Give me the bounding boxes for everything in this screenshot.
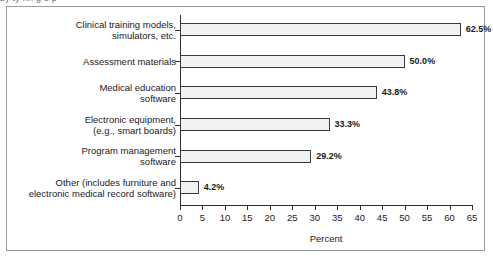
category-label: Assessment materials [0, 56, 176, 67]
x-axis-tick [337, 205, 338, 210]
x-axis-tick [225, 205, 226, 210]
x-axis-title: Percent [180, 233, 472, 244]
bar-row: Assessment materials50.0% [0, 47, 493, 77]
bar [180, 118, 330, 131]
x-axis-tick [247, 205, 248, 210]
bar-value-label: 33.3% [335, 118, 361, 131]
bar [180, 55, 405, 68]
bar-chart-plot-area: Clinical training models, simulators, et… [0, 0, 493, 259]
category-label: Electronic equipment, (e.g., smart board… [0, 114, 176, 136]
bar [180, 181, 199, 194]
x-axis-tick [427, 205, 428, 210]
bar [180, 86, 377, 99]
bar [180, 23, 461, 36]
x-axis-tick [450, 205, 451, 210]
x-axis-tick [180, 205, 181, 210]
bar-row: Other (includes furniture and electronic… [0, 173, 493, 203]
bar-value-label: 4.2% [204, 181, 225, 194]
bar-value-label: 50.0% [410, 55, 436, 68]
x-axis-tick [405, 205, 406, 210]
bar-value-label: 29.2% [316, 150, 342, 163]
x-axis-tick-label: 65 [457, 212, 487, 223]
bar-value-label: 62.5% [466, 23, 492, 36]
category-label: Medical education software [0, 82, 176, 104]
x-axis-tick [382, 205, 383, 210]
bar-row: Program management software29.2% [0, 141, 493, 171]
bar-row: Clinical training models, simulators, et… [0, 15, 493, 45]
bar-row: Electronic equipment, (e.g., smart board… [0, 110, 493, 140]
x-axis-tick [315, 205, 316, 210]
category-label: Clinical training models, simulators, et… [0, 19, 176, 41]
x-axis-tick [270, 205, 271, 210]
x-axis-tick [360, 205, 361, 210]
x-axis-tick [292, 205, 293, 210]
category-label: Program management software [0, 145, 176, 167]
x-axis-tick [202, 205, 203, 210]
bar-value-label: 43.8% [382, 86, 408, 99]
bar-row: Medical education software43.8% [0, 78, 493, 108]
category-label: Other (includes furniture and electronic… [0, 177, 176, 199]
x-axis-tick [472, 205, 473, 210]
value-axis-line [180, 205, 472, 206]
bar [180, 150, 311, 163]
